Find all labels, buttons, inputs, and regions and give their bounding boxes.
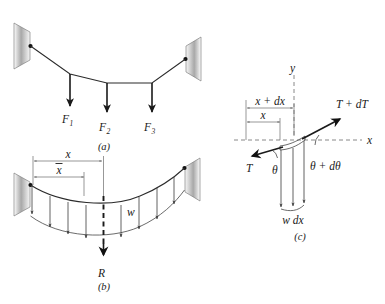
load-envelope-b: [31, 190, 185, 235]
dimension-label-x-c: x: [259, 109, 266, 121]
cable-element-c: [280, 136, 305, 150]
angle-label-theta: θ: [272, 164, 278, 176]
panel-caption-a: (a): [98, 141, 111, 153]
load-w-dx-c: w dx: [281, 141, 305, 226]
axis-label-y-c: y: [289, 62, 296, 75]
dimension-label-xbar-b: x: [55, 164, 62, 176]
figure-root: F 1 F 2 F 3 (a): [0, 0, 385, 304]
angle-arc-theta: [272, 150, 278, 158]
cable-path-b: [31, 168, 185, 203]
wall-bracket-icon: [14, 23, 30, 69]
dimension-x-c: x: [247, 109, 280, 140]
load-arrow-f2: F 2: [98, 83, 111, 136]
panel-caption-b: (b): [98, 281, 111, 293]
dimension-label-x-b: x: [64, 148, 71, 160]
wall-bracket-icon: [186, 37, 201, 81]
panel-c: y x x + dx x: [234, 62, 373, 243]
dimension-label-x-plus-dx-c: x + dx: [254, 95, 285, 107]
tension-left-c: T θ: [246, 147, 283, 176]
element-top-edge: [280, 136, 305, 146]
axis-label-x-c: x: [366, 134, 373, 146]
dimension-x-plus-dx-c: x + dx: [246, 95, 294, 140]
load-label-f2-sub: 2: [107, 127, 111, 136]
load-label-f3-sub: 3: [151, 127, 156, 136]
resultant-b: R: [97, 196, 105, 279]
support-left-b: [14, 173, 33, 216]
cable-path-a: [31, 46, 186, 83]
angle-label-theta-plus-dtheta: θ + dθ: [310, 160, 341, 172]
tension-right-c: T + dT θ + dθ: [302, 98, 369, 172]
support-right-a: [183, 37, 201, 81]
tension-label-t-plus-dt: T + dT: [336, 98, 369, 110]
load-arrow-f3: F 3: [143, 83, 156, 136]
load-label-f1-sub: 1: [70, 119, 74, 128]
load-arrow-f1: F 1: [61, 74, 73, 128]
cable-mechanics-figure: F 1 F 2 F 3 (a): [0, 0, 385, 304]
load-base-curve-c: [281, 205, 304, 211]
wall-bracket-icon: [185, 158, 200, 201]
wall-bracket-icon: [14, 173, 30, 216]
dimension-x-b: x: [33, 148, 104, 196]
load-intensity-label-w: w: [127, 206, 135, 218]
resultant-label-r: R: [97, 267, 105, 279]
support-right-b: [182, 158, 200, 201]
load-label-w-dx: w dx: [282, 214, 304, 226]
support-left-a: [14, 23, 33, 69]
tension-label-t: T: [246, 162, 254, 174]
panel-b: w R x x (b): [14, 148, 200, 293]
panel-caption-c: (c): [294, 231, 306, 243]
panel-a: F 1 F 2 F 3 (a): [14, 23, 201, 153]
